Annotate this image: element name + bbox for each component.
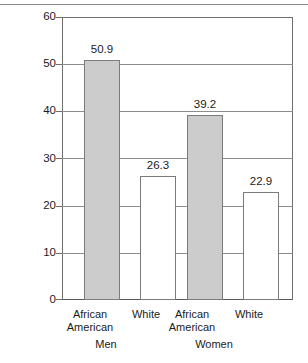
page-top-rule bbox=[0, 4, 308, 5]
category-label-white-women: White bbox=[215, 308, 283, 321]
y-tick-mark-30 bbox=[56, 158, 62, 159]
plot-area: 50.9 26.3 39.2 22.9 bbox=[62, 17, 293, 300]
bar-value-african-american-men: 50.9 bbox=[84, 44, 120, 56]
y-tick-label-10: 10 bbox=[26, 247, 56, 259]
bar-african-american-women[interactable] bbox=[187, 115, 223, 300]
group-label-women: Women bbox=[162, 338, 266, 351]
y-tick-label-50: 50 bbox=[26, 58, 56, 70]
y-tick-mark-20 bbox=[56, 206, 62, 207]
y-tick-label-20: 20 bbox=[26, 200, 56, 212]
category-label-line-1: White bbox=[215, 308, 283, 321]
bar-value-white-women: 22.9 bbox=[243, 176, 279, 188]
bar-value-african-american-women: 39.2 bbox=[187, 99, 223, 111]
y-tick-label-40: 40 bbox=[26, 105, 56, 117]
y-tick-mark-40 bbox=[56, 111, 62, 112]
y-tick-mark-0 bbox=[56, 299, 62, 300]
y-tick-label-30: 30 bbox=[26, 153, 56, 165]
y-tick-label-60: 60 bbox=[26, 11, 56, 23]
stroke-death-rates-bar-chart: Age-Adjusted Stroke Death Rates per 100,… bbox=[0, 0, 308, 363]
bar-white-men[interactable] bbox=[140, 176, 176, 300]
y-tick-label-0: 0 bbox=[26, 294, 56, 306]
group-label-men: Men bbox=[54, 338, 158, 351]
y-axis-label: Age-Adjusted Stroke Death Rates per 100,… bbox=[0, 0, 20, 40]
bar-value-white-men: 26.3 bbox=[140, 160, 176, 172]
y-tick-mark-10 bbox=[56, 253, 62, 254]
y-tick-mark-60 bbox=[56, 17, 62, 18]
bar-white-women[interactable] bbox=[243, 192, 279, 300]
y-tick-mark-50 bbox=[56, 64, 62, 65]
bar-african-american-men[interactable] bbox=[84, 60, 120, 300]
